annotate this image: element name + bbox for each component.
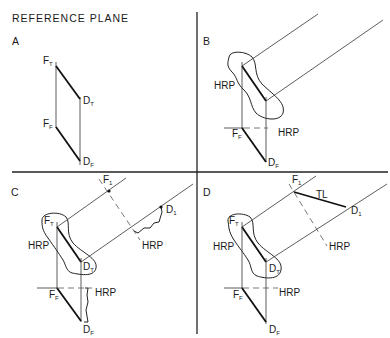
label-df: DF [83,156,94,168]
label-d1: D1 [166,204,177,216]
line-top-view [242,66,266,101]
hrp-label-top: HRP [214,80,235,91]
label-dt: DT [269,263,280,275]
projector-ft-aux [242,176,316,227]
label-ft: FT [229,215,239,227]
panel-a: A FT DT FF DF [12,35,94,168]
panel-c: C F1 D1 FT DT HRP HRP HRP FF DF [11,174,193,336]
line-top-view [56,66,80,99]
panel-b-letter: B [203,35,210,47]
true-length-label: TL [316,189,328,200]
label-df: DF [83,324,94,336]
line-front-view [242,288,266,322]
label-ff: FF [233,289,243,301]
label-ft: FT [44,215,54,227]
label-ff: FF [49,289,59,301]
height-bracket-aux [134,207,162,233]
projector-ft-aux [57,178,126,227]
reference-plane-diagram: REFERENCE PLANE A FT DT FF DF B HRP HRP … [0,0,390,338]
label-dt: DT [83,95,94,107]
line-front-view [242,128,266,162]
panel-c-letter: C [11,186,19,198]
label-f1: F1 [103,174,113,186]
hrp-label-top: HRP [28,240,49,251]
hrp-aux-line [99,179,140,240]
height-bracket-front [84,288,88,322]
hrp-label-bottom: HRP [278,127,299,138]
hrp-label-bottom: HRP [279,287,300,298]
line-front-view [56,127,80,161]
label-ff: FF [43,118,53,130]
panel-d-letter: D [203,186,211,198]
hrp-label-aux: HRP [329,241,350,252]
label-df: DF [268,157,279,169]
label-df: DF [269,324,280,336]
projector-ft-aux [242,14,318,66]
hrp-label-bottom: HRP [95,287,116,298]
label-d1: D1 [351,205,362,217]
diagram-title: REFERENCE PLANE [12,12,129,24]
panel-d: D F1 D1 TL FT DT HRP HRP HRP FF DF [203,174,387,336]
hrp-label-top: HRP [213,241,234,252]
panel-b: B HRP HRP FF DF [203,14,383,169]
label-ff: FF [232,128,242,140]
projector-dt-aux [81,184,193,262]
panel-a-letter: A [12,35,19,47]
projector-dt-aux [266,20,383,101]
line-front-view [57,288,81,321]
label-dt: DT [83,261,94,273]
point-f1 [107,189,110,192]
label-ft: FT [43,55,53,67]
hrp-label-aux: HRP [142,240,163,251]
label-f1: F1 [292,174,302,186]
